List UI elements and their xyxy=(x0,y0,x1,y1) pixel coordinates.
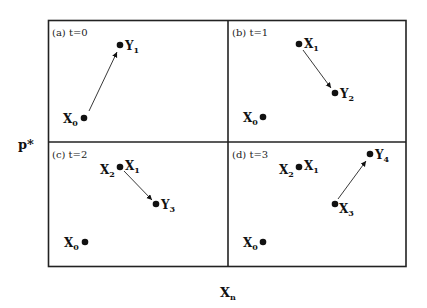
label-x0: X0 xyxy=(243,111,258,127)
label-x0: X0 xyxy=(243,236,258,252)
arrow-x1-to-y2 xyxy=(303,50,331,88)
x-axis-label: Xn xyxy=(220,285,236,302)
point-y4 xyxy=(367,151,374,158)
label-y1: Y1 xyxy=(124,39,139,55)
point-x3 xyxy=(332,201,339,208)
point-x1 xyxy=(296,41,303,48)
panel-a: (a) t=0 Y1 X0 xyxy=(52,27,139,128)
label-y2: Y2 xyxy=(339,87,354,103)
panel-c: (c) t=2 X2 X1 Y3 X0 xyxy=(52,149,176,252)
label-y3: Y3 xyxy=(160,198,176,214)
label-x0: X0 xyxy=(64,236,79,252)
four-panel-diagram: (a) t=0 Y1 X0 (b) t=1 X1 Y2 X0 (c) t=2 X… xyxy=(0,0,427,308)
point-x2-x1 xyxy=(296,164,303,171)
panel-c-label: (c) t=2 xyxy=(52,149,87,160)
point-x0 xyxy=(260,239,267,246)
label-x1: X1 xyxy=(304,159,319,175)
panel-a-label: (a) t=0 xyxy=(52,27,88,38)
panel-b-label: (b) t=1 xyxy=(232,27,268,38)
panel-d-label: (d) t=3 xyxy=(232,149,268,160)
point-x2-x1 xyxy=(117,164,124,171)
point-y1 xyxy=(117,42,124,49)
point-y2 xyxy=(332,90,339,97)
y-axis-label: p* xyxy=(18,137,34,152)
label-x0: X0 xyxy=(63,112,78,128)
panel-b: (b) t=1 X1 Y2 X0 xyxy=(232,27,354,127)
label-x2: X2 xyxy=(100,163,115,179)
label-x1: X1 xyxy=(125,159,140,175)
point-x0 xyxy=(81,115,88,122)
point-x0 xyxy=(82,239,89,246)
point-y3 xyxy=(153,201,160,208)
point-x0 xyxy=(260,114,267,121)
label-x3: X3 xyxy=(339,202,354,218)
label-y4: Y4 xyxy=(374,148,390,164)
label-x2: X2 xyxy=(279,163,294,179)
arrow-x0-to-y1 xyxy=(89,52,117,111)
arrow-x2-to-y3 xyxy=(124,171,152,200)
panel-d: (d) t=3 X2 X1 Y4 X3 X0 xyxy=(232,148,390,252)
arrow-x3-to-y4 xyxy=(338,161,366,199)
label-x1: X1 xyxy=(304,37,319,53)
